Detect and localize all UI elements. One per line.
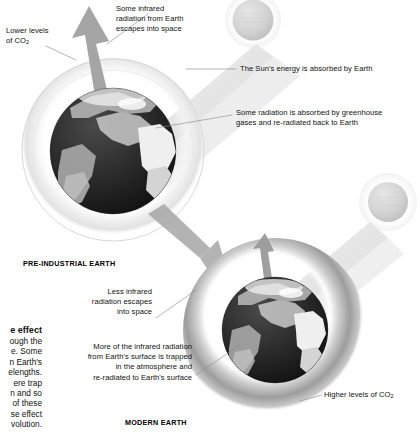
annotation-sun-absorbed: The Sun's energy is absorbed by Earth bbox=[240, 64, 416, 74]
annotation-lower-co2-line1: Lower levels bbox=[6, 26, 49, 35]
body-copy-line-1: ough the bbox=[10, 336, 42, 346]
annotation-less-escapes-line2: radiation escapes bbox=[92, 297, 152, 306]
scene-label-pre-industrial-text: PRE-INDUSTRIAL EARTH bbox=[23, 259, 115, 268]
leader-lower-co2 bbox=[46, 46, 76, 60]
annotation-escapes-top-line2: radiation from Earth bbox=[116, 14, 183, 23]
annotation-more-trapped-line1: More of the infrared radiation bbox=[93, 342, 192, 351]
annotation-higher-co2-subscript: 2 bbox=[391, 393, 394, 399]
annotation-sun-absorbed-text: The Sun's energy is absorbed by Earth bbox=[240, 64, 372, 73]
annotation-re-radiated-line2: gases and re-radiated back to Earth bbox=[236, 118, 358, 127]
annotation-lower-co2-line2: of CO bbox=[6, 36, 26, 45]
body-copy-line-4: elengths. bbox=[8, 367, 42, 377]
body-copy-line-3: n Earth's bbox=[10, 357, 42, 367]
body-copy-line-2: e. Some bbox=[11, 346, 42, 356]
annotation-less-escapes: Less infrared radiation escapes into spa… bbox=[56, 287, 152, 318]
annotation-more-trapped-line4: re-radiated to Earth's surface bbox=[93, 373, 192, 382]
diagram-canvas: Lower levels of CO2 Some infrared radiat… bbox=[0, 0, 420, 436]
annotation-higher-co2: Higher levels of CO2 bbox=[324, 390, 420, 401]
annotation-more-trapped: More of the infrared radiation from Eart… bbox=[42, 342, 192, 383]
body-copy-greenhouse-effect: e effect ough the e. Some n Earth's elen… bbox=[0, 325, 42, 430]
annotation-more-trapped-line3: in the atmosphere and bbox=[116, 362, 192, 371]
earth-globe-modern bbox=[222, 277, 328, 383]
annotation-more-trapped-line2: from Earth's surface is trapped bbox=[88, 352, 192, 361]
annotation-re-radiated: Some radiation is absorbed by greenhouse… bbox=[236, 108, 418, 128]
annotation-lower-co2-subscript: 2 bbox=[26, 39, 29, 45]
annotation-escapes-top-line1: Some infrared bbox=[116, 4, 164, 13]
body-copy-line-5: ere trap bbox=[13, 378, 42, 388]
annotation-lower-co2: Lower levels of CO2 bbox=[6, 26, 68, 47]
annotation-re-radiated-line1: Some radiation is absorbed by greenhouse bbox=[236, 108, 382, 117]
sun-sphere-top bbox=[225, 0, 281, 48]
body-copy-line-6: n and so bbox=[10, 388, 42, 398]
scene-label-modern: MODERN EARTH bbox=[125, 418, 187, 427]
scene-label-modern-text: MODERN EARTH bbox=[125, 418, 187, 427]
re-radiated-arrow-pre-industrial bbox=[148, 204, 226, 270]
scene-label-pre-industrial: PRE-INDUSTRIAL EARTH bbox=[23, 259, 115, 268]
body-copy-heading: e effect bbox=[0, 325, 42, 336]
annotation-higher-co2-text: Higher levels of CO bbox=[324, 390, 391, 399]
annotation-escapes-top: Some infrared radiation from Earth escap… bbox=[116, 4, 226, 35]
sun-sphere-lower bbox=[359, 173, 417, 231]
body-copy-line-8: se effect bbox=[11, 409, 42, 419]
annotation-less-escapes-line3: into space bbox=[117, 307, 152, 316]
annotation-escapes-top-line3: escapes into space bbox=[116, 24, 182, 33]
body-copy-line-7: of these bbox=[12, 398, 42, 408]
body-copy-line-9: volution. bbox=[11, 419, 42, 429]
annotation-less-escapes-line1: Less infrared bbox=[108, 287, 152, 296]
